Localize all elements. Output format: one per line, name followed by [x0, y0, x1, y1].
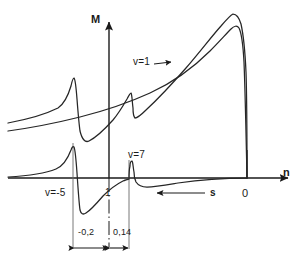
y-axis-label: M	[91, 14, 100, 25]
sync-speed-tick-label: 1	[105, 188, 111, 198]
origin-tick-label: 0	[242, 188, 248, 199]
dimension-label-left: -0,2	[78, 228, 94, 237]
leader-arrow-fundamental	[154, 62, 171, 64]
curve-label-harmonic-minus5: v=-5	[45, 188, 66, 198]
torque-speed-plot	[0, 0, 299, 266]
guide-lines-group	[73, 143, 247, 249]
curves-group	[8, 14, 247, 214]
figure-container: M n v=1 v=7 v=-5 1 s 0 -0,2 0,14	[0, 0, 299, 266]
label-leader-group	[154, 62, 171, 64]
curve-label-harmonic-7: v=7	[128, 150, 145, 160]
x-axis-label: n	[283, 167, 290, 178]
slip-axis-label: s	[210, 188, 216, 198]
dimension-label-right: 0,14	[113, 228, 131, 237]
curve-label-fundamental: v=1	[133, 57, 150, 67]
